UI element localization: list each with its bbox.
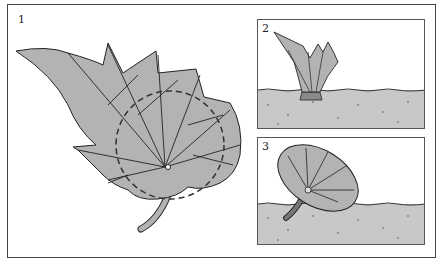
panel-2: 2 — [257, 19, 425, 129]
leaf-disc-illustration — [258, 138, 425, 245]
folded-leaf-illustration — [258, 20, 425, 129]
figure-frame: 1 2 — [7, 4, 436, 258]
panel-3: 3 — [257, 137, 425, 245]
leaf-illustration — [8, 5, 258, 259]
